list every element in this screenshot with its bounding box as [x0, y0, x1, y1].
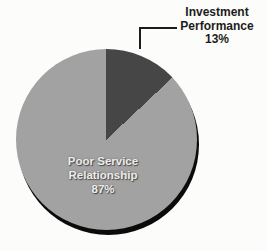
callout-label-investment-performance: Investment Performance 13% — [170, 6, 264, 47]
callout-percent-text: 13% — [170, 33, 264, 47]
pie-chart: Poor Service Relationship 87% — [16, 49, 197, 230]
slice-label-poor-service: Poor Service Relationship 87% — [37, 154, 169, 196]
pie-chart-figure: Investment Performance 13% Poor Service … — [0, 0, 267, 250]
callout-label-text: Investment Performance — [170, 6, 264, 33]
slice-label-text: Poor Service Relationship — [37, 154, 169, 182]
callout-leader-line — [139, 27, 177, 49]
slice-percent-text: 87% — [37, 182, 169, 196]
